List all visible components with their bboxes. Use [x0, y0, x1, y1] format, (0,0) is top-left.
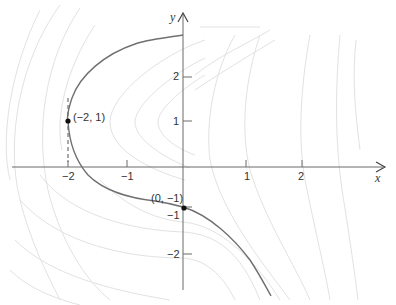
diagram-canvas	[0, 0, 396, 305]
y-tick-label: 2	[173, 71, 179, 82]
axes	[12, 13, 385, 290]
x-tick-label: 1	[244, 171, 250, 182]
y-tick-label: −2	[167, 249, 180, 260]
x-tick-label: 2	[298, 171, 304, 182]
y-tick-label: −1	[167, 210, 180, 221]
point-minus2-1	[65, 118, 70, 123]
x-tick-label: −2	[62, 171, 75, 182]
y-tick-label: 1	[173, 116, 179, 127]
point-label-0-minus1: (0, −1)	[151, 193, 183, 204]
point-0-minus1	[181, 205, 186, 210]
y-axis-label: y	[170, 11, 175, 23]
x-tick-label: −1	[121, 171, 134, 182]
x-axis-label: x	[375, 172, 380, 184]
point-label-minus2-1: (−2, 1)	[73, 112, 105, 123]
